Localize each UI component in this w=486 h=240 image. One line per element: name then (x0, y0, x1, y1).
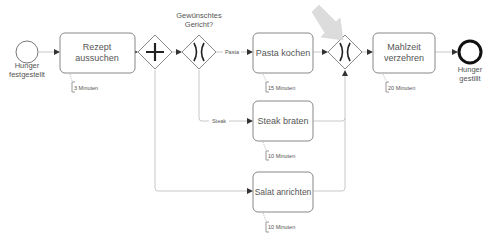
parallel-gateway[interactable] (138, 35, 172, 69)
task-rezept-line2: aussuchen (75, 53, 119, 63)
start-event-label-1: Hunger (15, 61, 40, 70)
exclusive-gateway-merge[interactable] (328, 35, 362, 69)
start-event[interactable] (16, 41, 38, 63)
bpmn-diagram: Hunger festgestellt Rezept aussuchen 3 M… (0, 0, 486, 240)
gateway-question-line1: Gewünschtes (176, 11, 222, 20)
exclusive-gateway-split[interactable] (182, 35, 216, 69)
start-event-label-2: festgestellt (9, 70, 46, 79)
flow-label-steak: Steak (212, 118, 226, 124)
annotation-mahlzeit-duration: 20 Minuten (388, 85, 415, 91)
annotation-steak-duration: 10 Minuten (268, 153, 295, 159)
gateway-question-line2: Gericht? (185, 20, 213, 29)
task-mahlzeit-line1: Mahlzeit (387, 42, 421, 52)
task-mahlzeit-line2: verzehren (384, 53, 424, 63)
annotation-rezept-duration: 3 Minuten (74, 85, 98, 91)
highlight-pointer-arrow-icon (312, 5, 343, 40)
task-pasta-label: Pasta kochen (256, 48, 311, 58)
end-event-label-1: Hunger (458, 65, 483, 74)
task-steak-label: Steak braten (257, 116, 308, 126)
task-salat-label: Salat anrichten (255, 187, 312, 197)
end-event[interactable] (459, 41, 481, 63)
annotation-pasta-duration: 15 Minuten (268, 85, 295, 91)
annotation-salat-duration: 10 Minuten (268, 224, 295, 230)
task-rezept-line1: Rezept (83, 42, 112, 52)
end-event-label-2: gestillt (459, 74, 481, 83)
flow-label-pasta: Pasta (225, 49, 240, 55)
